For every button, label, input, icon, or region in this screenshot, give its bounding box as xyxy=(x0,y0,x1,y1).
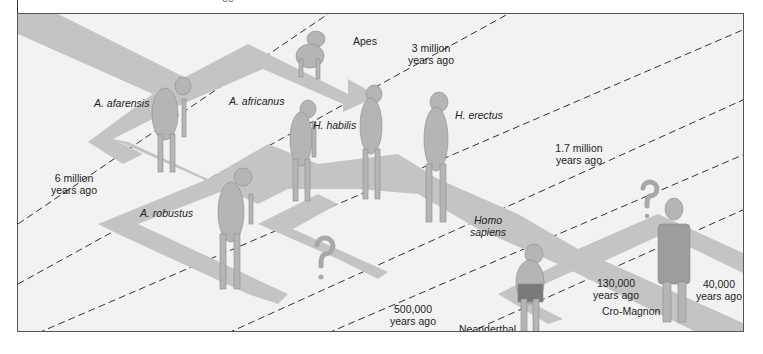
time-marker-3-million: 3 million years ago xyxy=(401,42,461,66)
cut-off-text: ee xyxy=(222,0,234,4)
label-apes: Apes xyxy=(353,35,377,47)
label-a-africanus: A. africanus xyxy=(229,95,284,107)
time-marker-40000: 40,000 years ago xyxy=(693,278,744,302)
time-marker-line2: years ago xyxy=(44,184,104,196)
time-marker-line1: 130,000 xyxy=(588,277,644,289)
page-edge xyxy=(17,0,18,13)
time-marker-6-million: 6 million years ago xyxy=(44,172,104,196)
homo-sapiens-line2: sapiens xyxy=(463,226,513,238)
time-marker-line2: years ago xyxy=(546,154,612,166)
label-neanderthal: Neanderthal xyxy=(459,323,516,332)
label-a-afarensis: A. afarensis xyxy=(94,97,149,109)
time-marker-500000: 500,000 years ago xyxy=(386,303,440,327)
time-marker-line1: 3 million xyxy=(401,42,461,54)
label-h-habilis: H. habilis xyxy=(313,119,356,131)
time-marker-1-7-million: 1.7 million years ago xyxy=(546,142,612,166)
question-mark-2 xyxy=(643,182,657,206)
time-marker-line2: years ago xyxy=(401,54,461,66)
time-marker-line2: years ago xyxy=(588,289,644,301)
time-marker-130000: 130,000 years ago xyxy=(588,277,644,301)
time-marker-line2: years ago xyxy=(386,315,440,327)
label-cro-magnon: Cro-Magnon xyxy=(602,305,660,317)
time-marker-line1: 1.7 million xyxy=(546,142,612,154)
time-marker-line1: 40,000 xyxy=(693,278,744,290)
apes-figure xyxy=(296,31,325,79)
evolution-diagram: Apes A. afarensis A. africanus H. habili… xyxy=(17,13,744,332)
time-marker-line1: 500,000 xyxy=(386,303,440,315)
question-mark-1 xyxy=(317,238,333,266)
label-a-robustus: A. robustus xyxy=(140,207,193,219)
homo-sapiens-line1: Homo xyxy=(463,214,513,226)
label-homo-sapiens: Homo sapiens xyxy=(463,214,513,238)
time-marker-line2: years ago xyxy=(693,290,744,302)
label-h-erectus: H. erectus xyxy=(455,109,503,121)
time-marker-line1: 6 million xyxy=(44,172,104,184)
